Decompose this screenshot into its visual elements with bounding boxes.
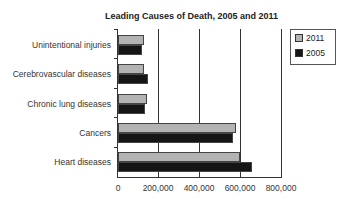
bar-2011: [118, 35, 144, 45]
x-tick-label: 800,000: [266, 183, 297, 193]
legend-swatch: [295, 34, 303, 42]
category-label: Chronic lung diseases: [27, 99, 111, 109]
bar-2011: [118, 123, 236, 133]
x-axis-line: [117, 177, 282, 178]
gridline-800000: [281, 29, 282, 177]
y-tick: [114, 88, 117, 89]
category-label: Cerebrovascular diseases: [13, 69, 111, 79]
bar-2005: [118, 45, 142, 55]
legend-swatch: [295, 49, 303, 57]
x-tick-label: 200,000: [143, 183, 174, 193]
gridline-600000: [240, 29, 241, 177]
bar-2005: [118, 133, 233, 143]
legend-label: 2005: [306, 48, 325, 58]
x-tick-label: 600,000: [225, 183, 256, 193]
x-tick-label: 0: [116, 183, 121, 193]
bar-2011: [118, 152, 240, 162]
y-tick: [114, 147, 117, 148]
legend: 2011 2005: [290, 29, 336, 65]
legend-item-2005: 2005: [295, 48, 325, 58]
bar-2011: [118, 64, 144, 74]
y-tick: [114, 29, 117, 30]
bar-2005: [118, 162, 252, 172]
bar-2011: [118, 94, 147, 104]
legend-label: 2011: [306, 33, 324, 43]
y-tick: [114, 58, 117, 59]
chart-title: Leading Causes of Death, 2005 and 2011: [0, 11, 343, 21]
category-label: Cancers: [79, 128, 111, 138]
category-label: Unintentional injuries: [32, 40, 111, 50]
bar-2005: [118, 74, 148, 84]
category-label: Heart diseases: [54, 157, 111, 167]
x-tick-label: 400,000: [184, 183, 215, 193]
y-tick: [114, 117, 117, 118]
bar-2005: [118, 104, 145, 114]
legend-item-2011: 2011: [295, 33, 324, 43]
